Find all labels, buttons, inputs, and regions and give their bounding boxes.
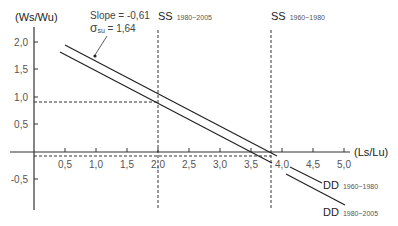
dd-1960-1980-line	[65, 45, 277, 156]
dd-lines	[60, 45, 345, 205]
ss-1980-2005-label: SS1980~2005	[158, 10, 212, 22]
x-tick-label: 4,0	[275, 159, 289, 170]
x-tick-label: 0,5	[58, 159, 72, 170]
x-tick-label: 1,0	[89, 159, 103, 170]
arrow-head-icon	[93, 54, 96, 57]
chart: 2,0 1,5 1,0 0,5 -0,5 0,5 1,0 1,5 2,0 2,5…	[0, 0, 398, 226]
y-axis-title: (Ws/Wu)	[15, 11, 58, 23]
dd-1980-2005-line	[60, 52, 272, 163]
dd-1980-2005-label: DD1980~2005	[323, 206, 378, 218]
y-tick-label: 0,5	[14, 119, 28, 130]
x-tick-label: 4,5	[306, 159, 320, 170]
x-tick-label: 2,5	[182, 159, 196, 170]
y-tick-label: 1,0	[14, 92, 28, 103]
y-tick-label: 2,0	[14, 37, 28, 48]
x-tick-label: 3,0	[213, 159, 227, 170]
x-tick-label: 1,5	[120, 159, 134, 170]
x-tick-label: 3,5	[244, 159, 258, 170]
y-tick-label: -0,5	[11, 174, 29, 185]
x-axis-title: (Ls/Lu)	[354, 146, 388, 158]
annotation-arrow	[95, 36, 107, 55]
sigma-annotation: σsu = 1,64	[90, 21, 136, 35]
ss-1960-1980-label: SS1960~1980	[271, 10, 325, 22]
slope-annotation: Slope = -0,61	[90, 10, 150, 21]
x-tick-label: 5,0	[337, 159, 351, 170]
dd-1960-1980-label: DD1960~1980	[323, 179, 378, 191]
y-tick-label: 1,5	[14, 64, 28, 75]
